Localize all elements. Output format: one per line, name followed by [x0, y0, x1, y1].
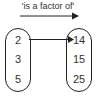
mapping-arrow-icon: [0, 0, 96, 99]
